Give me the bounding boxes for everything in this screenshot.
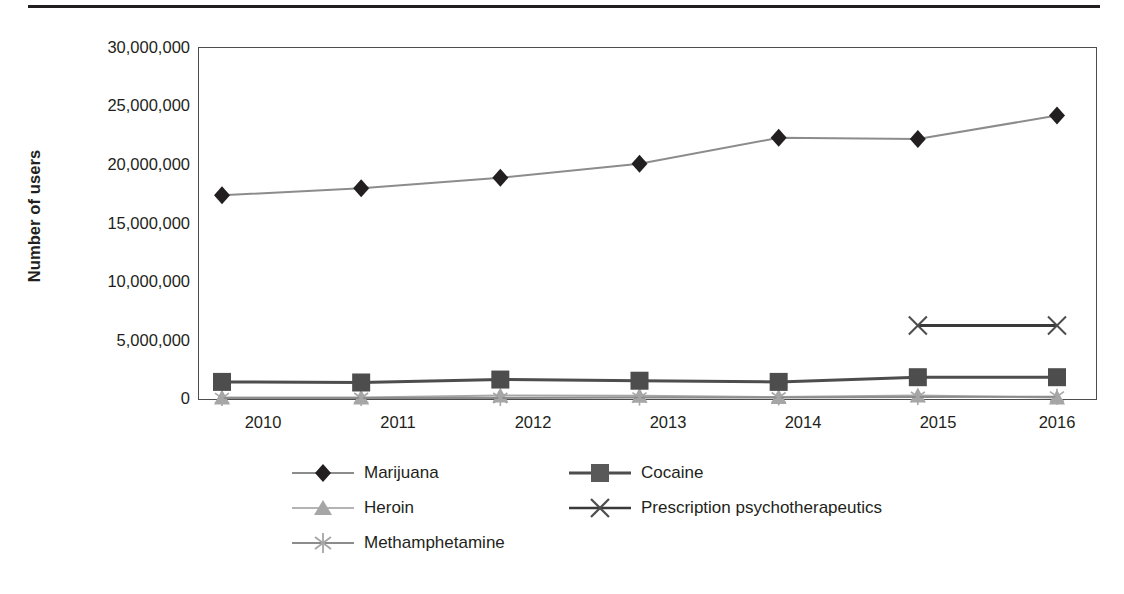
legend-label: Methamphetamine xyxy=(356,533,505,553)
legend-item-cocaine[interactable]: Cocaine xyxy=(567,455,703,490)
legend-label: Prescription psychotherapeutics xyxy=(633,498,882,518)
legend-label: Marijuana xyxy=(356,463,439,483)
legend-label: Cocaine xyxy=(633,463,703,483)
triangle-marker-icon xyxy=(290,495,356,521)
diamond-marker-icon xyxy=(290,460,356,486)
x-axis-tick: 2011 xyxy=(338,413,458,432)
x-axis-tick: 2015 xyxy=(878,413,998,432)
y-axis-tick: 20,000,000 xyxy=(40,155,190,174)
asterisk-marker-icon xyxy=(290,530,356,556)
y-axis-tick: 30,000,000 xyxy=(40,38,190,57)
chart-legend: Marijuana Cocaine xyxy=(290,455,930,560)
legend-row: Heroin Prescription psychotherapeutics xyxy=(290,490,930,525)
x-axis-tick: 2012 xyxy=(473,413,593,432)
x-axis-tick: 2014 xyxy=(743,413,863,432)
x-axis-tick: 2016 xyxy=(997,413,1117,432)
x-marker-icon xyxy=(567,495,633,521)
legend-label: Heroin xyxy=(356,498,414,518)
legend-item-heroin[interactable]: Heroin xyxy=(290,490,414,525)
x-axis-tick: 2013 xyxy=(608,413,728,432)
square-marker-icon xyxy=(567,460,633,486)
chart-figure: Number of users 30,000,000 25,000,000 20… xyxy=(0,0,1124,594)
legend-row: Marijuana Cocaine xyxy=(290,455,930,490)
legend-item-prescription-psychotherapeutics[interactable]: Prescription psychotherapeutics xyxy=(567,490,882,525)
y-axis-tick-group: 30,000,000 25,000,000 20,000,000 15,000,… xyxy=(35,0,190,594)
y-axis-tick: 10,000,000 xyxy=(40,272,190,291)
y-axis-tick: 5,000,000 xyxy=(40,331,190,350)
y-axis-tick: 25,000,000 xyxy=(40,96,190,115)
y-axis-tick: 15,000,000 xyxy=(40,214,190,233)
x-axis-tick: 2010 xyxy=(203,413,323,432)
legend-item-methamphetamine[interactable]: Methamphetamine xyxy=(290,525,505,560)
plot-area xyxy=(198,47,1097,400)
legend-item-marijuana[interactable]: Marijuana xyxy=(290,455,439,490)
y-axis-tick: 0 xyxy=(40,389,190,408)
legend-row: Methamphetamine xyxy=(290,525,930,560)
